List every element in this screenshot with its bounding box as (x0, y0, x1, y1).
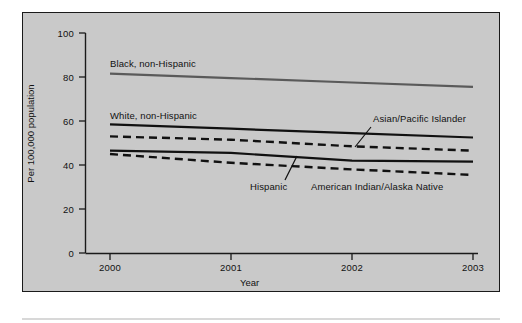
y-tick-label-80: 80 (52, 72, 74, 83)
series-line-hispanic (110, 151, 473, 162)
series-line-white-non-hispanic (110, 124, 473, 137)
series-label-black-non-hispanic: Black, non-Hispanic (110, 58, 196, 69)
series-label-american-indian-alaska-native: American Indian/Alaska Native (311, 181, 443, 192)
x-tick-label-2001: 2001 (210, 262, 252, 273)
series-label-asian-pacific-islander: Asian/Pacific Islander (373, 113, 466, 124)
y-tick-label-20: 20 (52, 204, 74, 215)
y-axis-ticks (79, 33, 86, 253)
chart-plot-area (0, 0, 522, 323)
figure-bottom-rule (22, 318, 500, 320)
leader-line-hispanic (285, 156, 297, 180)
series-line-black-non-hispanic (110, 74, 473, 87)
x-tick-label-2003: 2003 (452, 262, 494, 273)
leader-line-asian-pacific-islander (355, 127, 371, 147)
series-label-hispanic: Hispanic (250, 181, 287, 192)
x-axis-ticks (110, 254, 473, 261)
y-tick-label-40: 40 (52, 160, 74, 171)
y-axis-label: Per 100,000 population (25, 64, 36, 204)
chart-figure: 100 80 60 40 20 0 2000 2001 2002 2003 Pe… (0, 0, 522, 323)
x-axis-label: Year (240, 277, 259, 288)
y-tick-label-0: 0 (52, 248, 74, 259)
series-line-asian-pacific-islander (110, 136, 473, 150)
x-tick-label-2000: 2000 (89, 262, 131, 273)
series-label-white-non-hispanic: White, non-Hispanic (110, 110, 197, 121)
y-tick-label-100: 100 (52, 28, 74, 39)
x-tick-label-2002: 2002 (331, 262, 373, 273)
y-tick-label-60: 60 (52, 116, 74, 127)
